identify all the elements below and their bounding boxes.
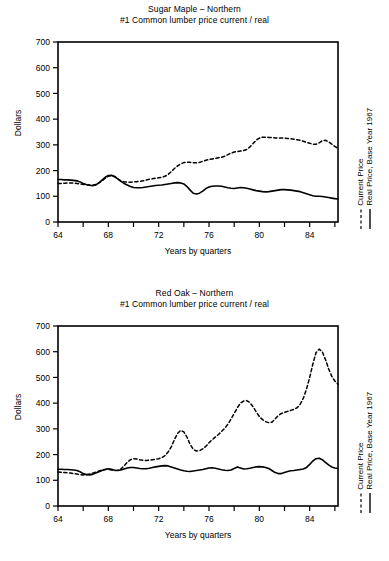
x-tick-label: 68 xyxy=(104,230,114,240)
x-tick-label: 80 xyxy=(255,514,265,524)
series-line-current-price xyxy=(58,349,338,475)
y-tick-label: 100 xyxy=(36,191,50,201)
y-tick-label: 400 xyxy=(36,398,50,408)
chart-canvas-red-oak: 0100200300400500600700 646872768084 xyxy=(0,280,389,561)
chart-panel-sugar-maple: Sugar Maple – Northern #1 Common lumber … xyxy=(0,0,389,280)
chart-canvas-sugar-maple: 0100200300400500600700 646872768084 xyxy=(0,0,389,280)
y-tick-label: 600 xyxy=(36,347,50,357)
x-axis-ticks: 646872768084 xyxy=(53,506,335,524)
series-layer xyxy=(58,349,338,475)
plot-frame xyxy=(58,42,338,222)
x-tick-label: 72 xyxy=(154,514,164,524)
y-tick-label: 100 xyxy=(36,475,50,485)
y-tick-label: 600 xyxy=(36,63,50,73)
x-tick-label: 68 xyxy=(104,514,114,524)
y-axis-ticks: 0100200300400500600700 xyxy=(36,321,58,511)
y-tick-label: 200 xyxy=(36,450,50,460)
y-tick-label: 0 xyxy=(45,217,50,227)
y-tick-label: 0 xyxy=(45,501,50,511)
series-line-real-price-base-year-1967 xyxy=(58,458,338,475)
x-tick-label: 84 xyxy=(305,230,315,240)
x-tick-label: 80 xyxy=(255,230,265,240)
plot-frame xyxy=(58,326,338,506)
x-tick-label: 76 xyxy=(204,230,214,240)
y-tick-label: 500 xyxy=(36,373,50,383)
y-tick-label: 200 xyxy=(36,166,50,176)
x-tick-label: 76 xyxy=(204,514,214,524)
x-tick-label: 64 xyxy=(53,514,63,524)
y-tick-label: 300 xyxy=(36,140,50,150)
x-tick-label: 64 xyxy=(53,230,63,240)
y-tick-label: 400 xyxy=(36,114,50,124)
y-tick-label: 700 xyxy=(36,37,50,47)
series-line-real-price-base-year-1967 xyxy=(58,175,338,199)
y-axis-ticks: 0100200300400500600700 xyxy=(36,37,58,227)
y-tick-label: 500 xyxy=(36,89,50,99)
series-line-current-price xyxy=(58,137,338,185)
y-tick-label: 700 xyxy=(36,321,50,331)
x-axis-ticks: 646872768084 xyxy=(53,222,335,240)
y-tick-label: 300 xyxy=(36,424,50,434)
x-tick-label: 72 xyxy=(154,230,164,240)
series-layer xyxy=(58,137,338,199)
x-tick-label: 84 xyxy=(305,514,315,524)
chart-panel-red-oak: Red Oak – Northern #1 Common lumber pric… xyxy=(0,280,389,561)
